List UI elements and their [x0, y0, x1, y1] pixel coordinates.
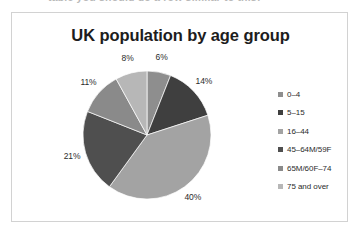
- pie-chart: [83, 71, 211, 199]
- pie-data-label: 21%: [58, 151, 86, 161]
- legend-item[interactable]: 0–4: [278, 85, 359, 104]
- legend-swatch-icon: [278, 92, 283, 97]
- legend-item-label: 16–44: [287, 127, 309, 136]
- legend-swatch-icon: [278, 110, 283, 115]
- legend-item[interactable]: 65M/60F–74: [278, 159, 359, 178]
- legend-swatch-icon: [278, 129, 283, 134]
- cutoff-text-strip: table you should do a row similar to thi…: [0, 0, 359, 11]
- chart-legend: 0–45–1516–4445–64M/59F65M/60F–7475 and o…: [278, 85, 359, 196]
- legend-item-label: 0–4: [287, 90, 300, 99]
- legend-swatch-icon: [278, 184, 283, 189]
- pie-data-label: 11%: [74, 77, 102, 87]
- pie-data-label: 40%: [179, 192, 207, 202]
- legend-swatch-icon: [278, 166, 283, 171]
- legend-item-label: 75 and over: [287, 182, 329, 191]
- legend-item-label: 45–64M/59F: [287, 145, 331, 154]
- legend-item[interactable]: 5–15: [278, 104, 359, 123]
- pie-data-label: 14%: [190, 76, 218, 86]
- pie-plot-area: 6%14%40%21%11%8%: [12, 13, 272, 223]
- chart-frame: UK population by age group 6%14%40%21%11…: [11, 12, 348, 222]
- cutoff-line-text: table you should do a row similar to thi…: [48, 0, 261, 3]
- legend-item-label: 5–15: [287, 108, 305, 117]
- pie-data-label: 6%: [148, 52, 176, 62]
- legend-item[interactable]: 16–44: [278, 122, 359, 141]
- legend-item-label: 65M/60F–74: [287, 164, 331, 173]
- pie-data-label: 8%: [114, 53, 142, 63]
- legend-item[interactable]: 45–64M/59F: [278, 141, 359, 160]
- legend-swatch-icon: [278, 147, 283, 152]
- legend-item[interactable]: 75 and over: [278, 178, 359, 197]
